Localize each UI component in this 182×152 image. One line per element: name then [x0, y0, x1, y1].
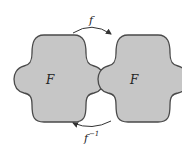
left-shape-label: F	[45, 73, 55, 87]
right-shape	[98, 35, 182, 122]
top-arrow	[73, 27, 111, 34]
left-shape	[14, 35, 104, 122]
right-shape-label: F	[129, 73, 139, 87]
top-arrow-label: f	[88, 14, 95, 27]
bijection-diagram: F F f f −1	[0, 0, 182, 152]
bottom-arrow-superscript: −1	[89, 130, 99, 138]
